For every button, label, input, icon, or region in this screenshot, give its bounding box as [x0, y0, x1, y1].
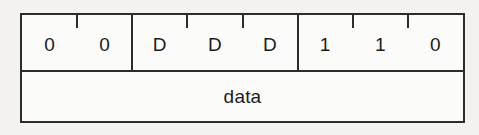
bit-field-row: 0 0 D D D [22, 15, 463, 72]
bit-cell: 1 [353, 15, 408, 70]
bit-cell-label: D [263, 35, 277, 54]
diagram-frame: 0 0 D D D [20, 13, 465, 123]
bit-cell-label: 0 [44, 35, 55, 54]
bit-cell-group: 0 0 D D D [22, 15, 463, 70]
cell-tick-mark [242, 15, 244, 28]
bit-cell: 0 [408, 15, 463, 70]
bit-cell-label: 1 [320, 35, 331, 54]
bit-cell: 1 [298, 15, 353, 70]
bit-cell: D [187, 15, 242, 70]
bit-cell-label: 1 [375, 35, 386, 54]
bit-cell: D [243, 15, 298, 70]
bit-cell-label: 0 [430, 35, 441, 54]
cell-tick-mark [186, 15, 188, 28]
bit-cell-label: 0 [99, 35, 110, 54]
data-field-label: data [224, 87, 262, 106]
bit-cell-label: D [153, 35, 167, 54]
bit-cell: D [132, 15, 187, 70]
bit-cell: 0 [77, 15, 132, 70]
cell-tick-mark [76, 15, 78, 28]
cell-group-divider [131, 15, 133, 70]
bit-cell: 0 [22, 15, 77, 70]
bit-field-figure: 0 0 D D D [0, 0, 479, 135]
cell-tick-mark [352, 15, 354, 28]
data-field-row: data [22, 72, 463, 121]
cell-tick-mark [407, 15, 409, 28]
cell-group-divider [297, 15, 299, 70]
bit-cell-label: D [208, 35, 222, 54]
